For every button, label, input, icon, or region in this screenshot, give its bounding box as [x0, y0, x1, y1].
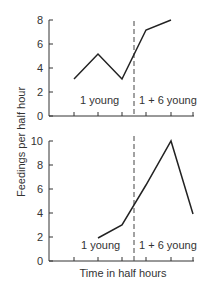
top-data-line: [74, 20, 171, 79]
bottom-annotation-1-6-young: 1 + 6 young: [139, 239, 197, 251]
feedings-chart-figure: 0 2 4 6 8 1 young 1 + 6 young: [0, 0, 210, 289]
top-chart: 0 2 4 6 8 1 young 1 + 6 young: [37, 14, 197, 122]
top-ytick-4: 4: [37, 62, 43, 74]
y-axis-title: Feedings per half hour: [15, 87, 27, 197]
top-ytick-0: 0: [37, 110, 43, 122]
top-ytick-2: 2: [37, 86, 43, 98]
top-ytick-6: 6: [37, 38, 43, 50]
bottom-annotation-1-young: 1 young: [81, 239, 120, 251]
bottom-ytick-10: 10: [31, 135, 43, 147]
bottom-ytick-0: 0: [37, 255, 43, 267]
bottom-ytick-6: 6: [37, 183, 43, 195]
top-ytick-8: 8: [37, 14, 43, 26]
top-y-ticks: [49, 20, 53, 116]
top-annotation-1-young: 1 young: [80, 94, 119, 106]
bottom-chart: 0 2 4 6 8 10 1 young 1 + 6 young: [31, 135, 197, 267]
x-axis-title: Time in half hours: [79, 267, 167, 279]
bottom-ytick-4: 4: [37, 207, 43, 219]
top-y-tick-labels: 0 2 4 6 8: [37, 14, 43, 122]
bottom-y-ticks: [49, 141, 53, 261]
bottom-ytick-2: 2: [37, 231, 43, 243]
bottom-y-tick-labels: 0 2 4 6 8 10: [31, 135, 43, 267]
top-annotation-1-6-young: 1 + 6 young: [139, 94, 197, 106]
bottom-ytick-8: 8: [37, 159, 43, 171]
bottom-data-line: [98, 141, 193, 238]
